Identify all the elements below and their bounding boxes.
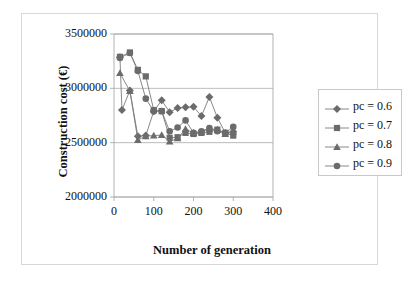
legend: pc = 0.6pc = 0.7pc = 0.8pc = 0.9	[318, 89, 402, 176]
data-point-circle	[190, 130, 197, 137]
legend-marker-triangle-icon	[324, 139, 350, 151]
data-point-circle	[135, 68, 142, 75]
data-point-circle	[174, 124, 181, 131]
legend-marker-square-icon	[324, 120, 350, 132]
legend-label: pc = 0.8	[353, 137, 392, 152]
legend-marker-circle-icon	[324, 158, 350, 170]
data-point-circle	[198, 128, 205, 135]
legend-item-pc-0-8[interactable]: pc = 0.8	[324, 134, 392, 155]
legend-label: pc = 0.7	[353, 118, 392, 133]
data-point-triangle	[116, 69, 124, 76]
data-point-circle	[206, 125, 213, 132]
data-point-square	[143, 73, 149, 79]
data-point-diamond	[205, 93, 213, 101]
series-line	[120, 53, 233, 133]
series-4	[117, 50, 237, 136]
data-point-diamond	[118, 106, 126, 114]
data-point-circle	[230, 124, 237, 131]
data-point-triangle	[182, 125, 190, 132]
data-point-circle	[150, 108, 157, 115]
legend-item-pc-0-6[interactable]: pc = 0.6	[324, 96, 392, 117]
data-point-circle	[222, 130, 229, 137]
data-point-circle	[117, 55, 124, 62]
data-point-circle	[214, 128, 221, 135]
data-point-square	[334, 124, 340, 130]
legend-item-pc-0-9[interactable]: pc = 0.9	[324, 153, 392, 174]
data-point-circle	[334, 162, 341, 169]
data-point-circle	[182, 117, 189, 124]
legend-item-pc-0-7[interactable]: pc = 0.7	[324, 115, 392, 136]
data-point-diamond	[333, 105, 341, 113]
legend-label: pc = 0.9	[353, 156, 392, 171]
data-point-diamond	[213, 114, 221, 122]
data-point-circle	[158, 108, 165, 115]
data-point-diamond	[174, 104, 182, 112]
data-point-circle	[127, 50, 134, 57]
legend-label: pc = 0.6	[353, 99, 392, 114]
series-layer	[116, 49, 237, 144]
legend-marker-diamond-icon	[324, 101, 350, 113]
figure-outer-border: Construction cost (€) Number of generati…	[21, 13, 378, 265]
data-point-diamond	[182, 103, 190, 111]
data-point-circle	[143, 95, 150, 102]
data-point-diamond	[158, 96, 166, 104]
data-point-diamond	[166, 108, 174, 116]
data-point-circle	[166, 128, 173, 135]
figure-canvas: Construction cost (€) Number of generati…	[0, 0, 407, 282]
data-point-triangle	[158, 131, 166, 138]
